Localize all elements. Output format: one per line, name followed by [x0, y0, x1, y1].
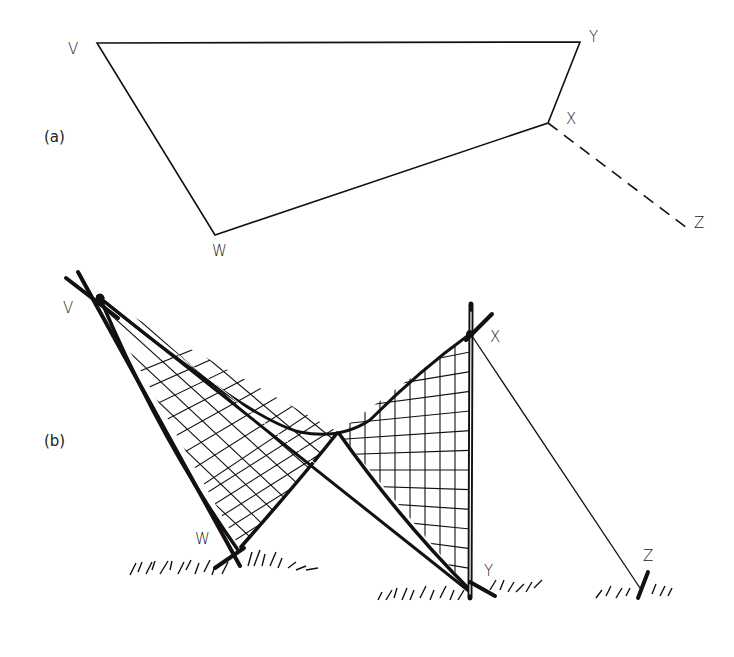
- panel-b-sketch: (b): [20, 256, 672, 600]
- point-label-v-a: V: [68, 40, 78, 58]
- panel-b-label: (b): [44, 432, 65, 450]
- point-label-z-b: Z: [643, 547, 653, 565]
- point-label-w-a: W: [212, 242, 227, 260]
- quadrilateral-vyxw: [97, 42, 580, 235]
- point-label-y-b: Y: [484, 562, 493, 580]
- net-edge-v-w: [100, 298, 238, 550]
- dashed-guy-line-xz: [548, 123, 687, 228]
- guy-line-x-to-z: [472, 336, 640, 588]
- net-edge-y-bottom: [338, 432, 470, 590]
- right-net-mesh: [330, 320, 480, 600]
- net-edges: [100, 296, 472, 592]
- point-label-v-b: V: [63, 299, 73, 317]
- grass-tufts: [130, 550, 672, 600]
- panel-a-label: (a): [44, 128, 65, 146]
- point-label-x-b: X: [490, 328, 500, 346]
- panel-a-diagram: (a) V Y X W Z: [44, 28, 704, 260]
- point-label-y-a: Y: [589, 28, 598, 46]
- rope-v-to-y: [100, 298, 470, 592]
- pole-v-b: [66, 278, 118, 318]
- point-label-w-b: W: [195, 530, 210, 548]
- pole-v-junction: [96, 294, 104, 302]
- figure-canvas: (a) V Y X W Z (b): [0, 0, 734, 657]
- point-label-x-a: X: [566, 110, 576, 128]
- ground-stake-z: [638, 572, 648, 598]
- rope-v-to-y-inner: [104, 296, 472, 588]
- pole-v-a: [78, 272, 240, 566]
- point-label-z-a: Z: [694, 214, 704, 232]
